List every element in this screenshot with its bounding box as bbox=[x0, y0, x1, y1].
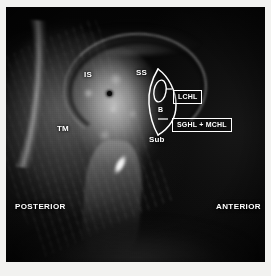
label-sghl-mchl: SGHL + MCHL bbox=[172, 118, 232, 132]
label-biceps-tendon: B bbox=[158, 106, 163, 113]
label-supraspinatus: SS bbox=[136, 69, 147, 77]
mri-scan-image: IS SS TM B Sub LCHL SGHL + MCHL POSTERIO… bbox=[6, 7, 265, 262]
biceps-tendon-outline bbox=[152, 79, 168, 103]
label-posterior-orientation: POSTERIOR bbox=[15, 203, 66, 211]
label-infraspinatus: IS bbox=[84, 71, 92, 79]
label-subscapularis: Sub bbox=[149, 136, 165, 144]
label-lchl: LCHL bbox=[173, 90, 202, 104]
annotation-overlay bbox=[6, 7, 265, 262]
mri-figure: IS SS TM B Sub LCHL SGHL + MCHL POSTERIO… bbox=[0, 0, 271, 276]
label-teres-minor: TM bbox=[57, 125, 69, 133]
label-anterior-orientation: ANTERIOR bbox=[216, 203, 261, 211]
